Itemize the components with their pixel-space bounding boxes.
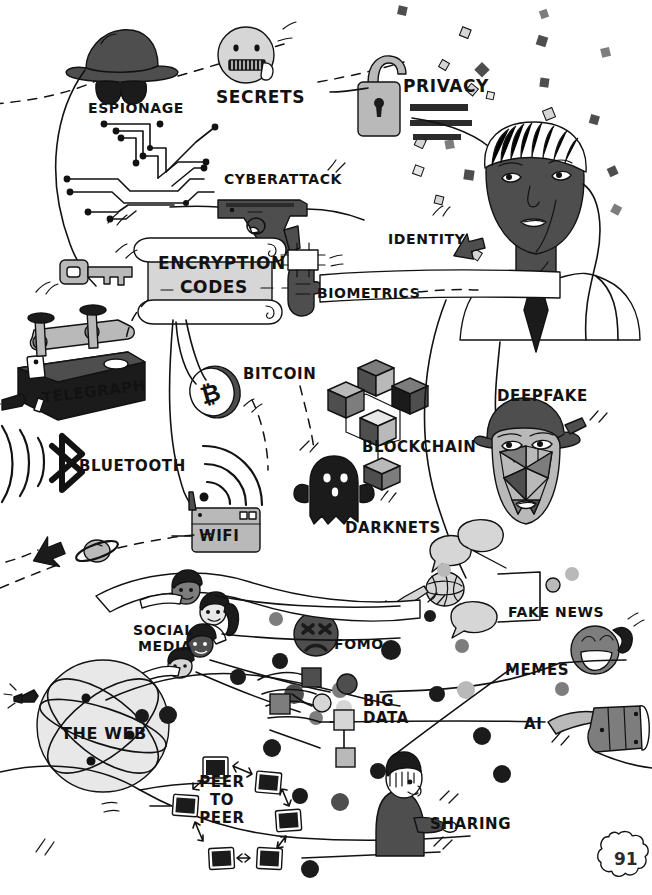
cube-right [392,378,428,414]
illustration-artwork: .s {fill:none;stroke:#121212;stroke-widt… [0,0,652,895]
key-icon [60,260,132,285]
dash-bottom-left-1 [0,564,60,588]
robot-hand-icon [548,706,652,768]
label-espionage: ESPIONAGE [88,101,184,115]
dash-bitcoin-down [252,400,268,470]
label-data: DATA [363,711,409,726]
label-bluetooth: BLUETOOTH [79,459,186,474]
dashed-trail-left [0,80,98,104]
label-the-web: THE WEB [61,726,147,742]
label-memes: MEMES [505,663,569,678]
laughing-face-icon [571,613,644,674]
label-biometrics: BIOMETRICS [317,286,420,300]
page-number: 91 [614,849,638,869]
label-bitcoin: BITCOIN [243,367,316,382]
p2p-node [275,809,301,832]
label-social: SOCIAL [133,623,194,637]
label-codes: CODES [180,279,248,296]
label-peer-1: PEER [197,775,247,790]
label-sharing: SHARING [430,817,511,832]
label-fake-news: FAKE NEWS [508,605,604,619]
label-media: MEDIA [138,639,192,653]
scroll-to-wifi-wire [170,320,202,516]
label-blockchain: BLOCKCHAIN [362,440,476,455]
deepfake-mask-icon [474,342,607,524]
dashed-trail-secrets-privacy [318,62,404,82]
label-darknets: DARKNETS [345,521,441,536]
label-ai: AI [524,717,542,732]
codes-to-bitcoin-wire [176,322,196,384]
p2p-node [208,847,234,869]
label-peer-2: PEER [197,811,247,826]
label-cyberattack: CYBERATTACK [224,172,342,186]
bitcoin-coin-icon: ₿ [184,360,246,423]
bluetooth-icon [2,426,82,502]
man-portrait-icon [460,122,640,352]
saturn-planet-icon [74,537,120,565]
label-wifi: WIFI [199,529,239,544]
label-peer-to: TO [197,793,247,808]
label-encryption: ENCRYPTION [158,255,286,272]
spy-hat-sunglasses-icon [66,30,178,104]
label-fomo: FOMO [334,637,384,651]
dash-to-ghost [300,386,314,450]
circuit-board-icon [64,121,219,223]
illustration-page: .s {fill:none;stroke:#121212;stroke-widt… [0,0,652,895]
label-big: BIG [363,694,394,709]
label-deepfake: DEEPFAKE [497,389,588,404]
cube-left [328,382,364,418]
p2p-node [255,771,282,794]
p2p-node [256,847,282,869]
label-identity: IDENTITY [388,232,465,246]
zipper-mouth-face-icon [218,22,296,83]
globe-icon [4,660,173,855]
label-privacy: PRIVACY [403,78,489,95]
p2p-node [172,794,198,817]
label-secrets: SECRETS [216,89,305,106]
